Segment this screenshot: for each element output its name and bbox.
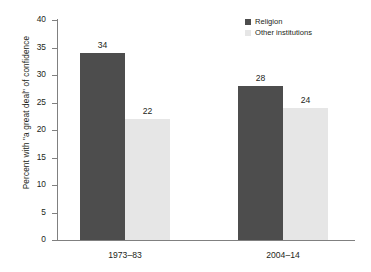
bar <box>80 53 125 240</box>
bar-value-label: 34 <box>80 40 125 50</box>
y-tick-label: 10 <box>37 179 46 189</box>
y-tick-label: 20 <box>37 124 46 134</box>
y-tick-label: 0 <box>41 234 46 244</box>
y-tick-label: 25 <box>37 97 46 107</box>
bar <box>125 119 170 240</box>
bar-value-label: 24 <box>283 95 328 105</box>
legend-label: Other institutions <box>255 27 312 38</box>
y-tick-label: 15 <box>37 152 46 162</box>
y-tick-label: 35 <box>37 42 46 52</box>
y-axis-title: Percent with "a great deal" of confidenc… <box>22 3 31 223</box>
bar-value-label: 22 <box>125 106 170 116</box>
bar <box>238 86 283 240</box>
x-axis-category-label: 2004–14 <box>233 250 333 260</box>
y-tick-label: 30 <box>37 69 46 79</box>
y-tick-mark <box>52 240 57 241</box>
legend-item: Other institutions <box>245 27 312 38</box>
bar <box>283 108 328 240</box>
legend-item: Religion <box>245 16 312 27</box>
x-axis-line <box>57 240 355 241</box>
x-axis-category-label: 1973–83 <box>75 250 175 260</box>
y-tick-label: 40 <box>37 14 46 24</box>
legend-swatch <box>245 30 251 36</box>
plot-area: 34222824 <box>57 20 355 240</box>
bar-value-label: 28 <box>238 73 283 83</box>
legend-swatch <box>245 19 251 25</box>
chart-legend: ReligionOther institutions <box>245 16 312 38</box>
bar-chart: Percent with "a great deal" of confidenc… <box>0 0 371 272</box>
y-tick-label: 5 <box>41 207 46 217</box>
legend-label: Religion <box>255 16 282 27</box>
